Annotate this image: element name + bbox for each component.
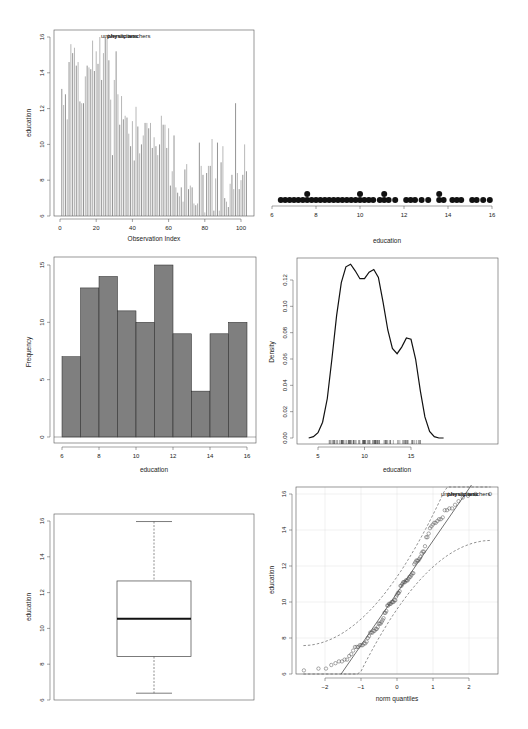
density-x-axis: 51015	[316, 447, 415, 459]
qq-plot-x-label: norm quantiles	[376, 695, 419, 703]
y-tick-label: 6	[281, 672, 287, 676]
qq-point	[348, 654, 351, 657]
histogram-y-axis: 051015	[39, 261, 50, 439]
y-tick-label: 0.00	[282, 432, 288, 444]
y-tick-label: 10	[39, 318, 45, 325]
boxplot-y-axis: 6810121416	[39, 517, 50, 702]
dot	[419, 197, 425, 203]
qq-point	[345, 658, 348, 661]
y-tick-label: 16	[39, 517, 45, 524]
boxplot-panel: 6810121416 education	[25, 514, 254, 702]
dot	[487, 197, 493, 203]
dot-plot-x-label: education	[373, 237, 402, 244]
index-plot-annotation-2: physicians	[107, 33, 139, 39]
y-tick-label: 8	[39, 178, 45, 182]
density-y-axis: 0.000.020.040.060.080.100.12	[282, 274, 293, 444]
qq-plot-grid	[296, 487, 498, 674]
y-tick-label: 0.10	[282, 300, 288, 312]
dot	[436, 191, 442, 197]
histogram-panel: 051015 6810121416 education Frequency	[25, 257, 256, 473]
x-tick-label: 14	[207, 453, 214, 459]
y-tick-label: 10	[39, 624, 45, 631]
x-tick-label: 40	[129, 225, 136, 231]
x-tick-label: −2	[322, 684, 330, 690]
x-tick-label: 0	[58, 225, 62, 231]
histogram-x-label: education	[140, 466, 169, 473]
index-plot-spikes	[62, 37, 247, 216]
qq-point	[317, 667, 320, 670]
histogram-y-label: Frequency	[25, 336, 33, 367]
index-plot-panel: 6810121416 020406080100 Observation Inde…	[25, 30, 254, 242]
y-tick-label: 12	[39, 105, 45, 112]
histogram-bar	[173, 334, 192, 437]
density-rug	[329, 440, 420, 444]
y-tick-label: 8	[39, 662, 45, 666]
y-tick-label: 0.04	[282, 379, 288, 391]
x-tick-label: 2	[467, 684, 471, 690]
x-tick-label: 8	[314, 212, 318, 218]
x-tick-label: 14	[445, 212, 452, 218]
boxplot-box	[117, 522, 191, 694]
y-tick-label: 16	[39, 33, 45, 40]
histogram-bar	[62, 357, 81, 437]
density-frame	[297, 258, 498, 444]
dot	[392, 197, 398, 203]
y-tick-label: 14	[39, 69, 45, 76]
boxplot-y-label: education	[25, 593, 32, 622]
density-y-label: Density	[268, 340, 276, 362]
y-tick-label: 14	[281, 526, 287, 533]
y-tick-label: 10	[281, 598, 287, 605]
y-tick-label: 14	[39, 553, 45, 560]
x-tick-label: 12	[401, 212, 408, 218]
histogram-bar	[136, 322, 155, 437]
x-tick-label: 16	[489, 212, 496, 218]
y-tick-label: 15	[39, 261, 45, 268]
y-tick-label: 12	[281, 562, 287, 569]
qq-plot-panel: 6810121416 −2−1012 university.teachers p…	[268, 485, 498, 703]
index-plot-x-label: Observation Index	[128, 235, 182, 242]
x-tick-label: 6	[270, 212, 274, 218]
y-tick-label: 10	[39, 140, 45, 147]
density-x-label: education	[383, 466, 412, 473]
qq-point	[427, 532, 430, 535]
dot	[425, 197, 431, 203]
y-tick-label: 16	[281, 490, 287, 497]
y-tick-label: 8	[281, 636, 287, 640]
histogram-bar	[155, 265, 174, 437]
x-tick-label: 12	[170, 453, 177, 459]
qq-point	[350, 653, 353, 656]
dot-plot-points	[278, 191, 493, 203]
y-tick-label: 0.02	[282, 405, 288, 417]
index-plot-y-label: education	[25, 109, 32, 138]
density-panel: 0.000.020.040.060.080.100.12 51015 educa…	[268, 258, 498, 473]
index-plot-y-axis: 6810121416	[39, 33, 50, 218]
qq-point	[445, 509, 448, 512]
y-tick-label: 5	[39, 377, 45, 381]
x-tick-label: 16	[244, 453, 251, 459]
x-tick-label: 1	[431, 684, 435, 690]
y-tick-label: 6	[39, 698, 45, 702]
x-tick-label: 0	[395, 684, 399, 690]
qq-plot-annotation-2: physicians	[447, 491, 479, 497]
histogram-bars	[54, 265, 256, 437]
x-tick-label: 10	[133, 453, 140, 459]
histogram-bar	[192, 391, 211, 437]
dot	[357, 191, 363, 197]
dot	[441, 197, 447, 203]
qq-point	[302, 669, 305, 672]
dot	[381, 191, 387, 197]
histogram-bar	[210, 334, 229, 437]
dot	[474, 197, 480, 203]
dot	[480, 197, 486, 203]
qq-point	[334, 662, 337, 665]
x-tick-label: 100	[236, 225, 247, 231]
dot	[458, 197, 464, 203]
qq-point	[423, 545, 426, 548]
histogram-bar	[229, 322, 248, 437]
index-plot-x-axis: 020406080100	[58, 219, 246, 231]
histogram-bar	[118, 311, 137, 437]
histogram-bar	[99, 276, 118, 437]
dot-plot-x-axis: 6810121416	[270, 206, 496, 218]
y-tick-label: 0.08	[282, 326, 288, 338]
x-tick-label: 5	[316, 453, 320, 459]
